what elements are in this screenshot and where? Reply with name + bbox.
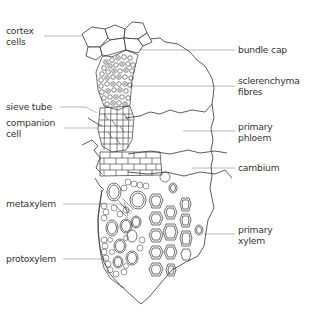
label-primary-xylem-line1: primary: [238, 224, 273, 235]
label-cambium-line1: cambium: [238, 162, 279, 173]
label-metaxylem-line1: metaxylem: [6, 198, 56, 209]
label-bundle-cap-line1: bundle cap: [238, 44, 287, 55]
xylem-parenchyma: [101, 179, 149, 277]
label-sclerenchyma-fibres-line1: sclerenchyma: [238, 75, 300, 86]
primary-xylem-vessels: [149, 183, 203, 276]
label-cortex-cells-line2: cells: [6, 36, 34, 47]
leader-sieve-tube: [60, 107, 97, 113]
label-sclerenchyma-fibres-line2: fibres: [238, 86, 300, 97]
label-cortex-cells: cortex cells: [6, 25, 34, 47]
label-sieve-tube-line1: sieve tube: [6, 101, 52, 112]
label-companion-cell: companion cell: [6, 117, 55, 139]
label-primary-phloem-line2: phloem: [238, 132, 273, 143]
phloem-mesh: [98, 106, 134, 152]
label-cortex-cells-line1: cortex: [6, 25, 34, 36]
label-primary-phloem-line1: primary: [238, 121, 273, 132]
label-sieve-tube: sieve tube: [6, 101, 52, 112]
vascular-bundle-diagram: cortex cells sieve tube companion cell m…: [0, 0, 309, 332]
leader-lines: [44, 36, 235, 259]
label-cambium: cambium: [238, 162, 279, 173]
cortex-cells: [82, 22, 152, 60]
xylem-region: [101, 179, 149, 277]
label-protoxylem-line1: protoxylem: [6, 253, 56, 264]
label-sclerenchyma-fibres: sclerenchyma fibres: [238, 75, 300, 97]
label-metaxylem: metaxylem: [6, 198, 56, 209]
label-protoxylem: protoxylem: [6, 253, 56, 264]
label-primary-xylem: primary xylem: [238, 224, 273, 246]
label-companion-cell-line2: cell: [6, 128, 55, 139]
label-primary-xylem-line2: xylem: [238, 235, 273, 246]
label-primary-phloem: primary phloem: [238, 121, 273, 143]
sclerenchyma-fibres: [96, 50, 138, 110]
label-bundle-cap: bundle cap: [238, 44, 287, 55]
label-companion-cell-line1: companion: [6, 117, 55, 128]
cambium-layer: [100, 152, 170, 182]
metaxylem-vessels: [106, 183, 146, 268]
protoxylem-hatch: [116, 198, 134, 218]
